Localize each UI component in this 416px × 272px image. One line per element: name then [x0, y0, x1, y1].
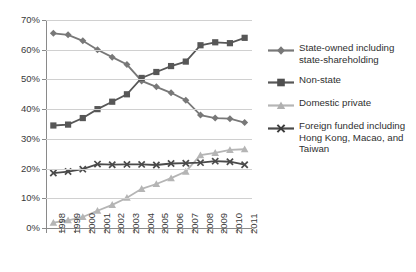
- x-axis-tick-label: 2009: [219, 213, 229, 234]
- x-axis-tick-label: 2007: [190, 213, 200, 234]
- gridline: [46, 198, 252, 199]
- y-tick-mark: [42, 20, 46, 21]
- x-axis-tick-label: 2001: [102, 213, 112, 234]
- gridline: [46, 79, 252, 80]
- chart-figure: State-owned including state-shareholding…: [0, 0, 416, 272]
- y-tick-mark: [42, 109, 46, 110]
- cross-marker-icon: [268, 121, 294, 134]
- legend-label: State-owned including state-shareholding: [299, 42, 416, 65]
- x-axis-tick-label: 2010: [234, 213, 244, 234]
- y-axis-tick-label: 50%: [0, 74, 40, 84]
- y-tick-mark: [42, 169, 46, 170]
- y-axis-tick-label: 70%: [0, 15, 40, 25]
- y-axis-tick-label: 10%: [0, 193, 40, 203]
- x-axis-tick-label: 1998: [57, 213, 67, 234]
- y-axis-tick-label: 30%: [0, 134, 40, 144]
- gridline: [46, 20, 252, 21]
- y-axis-tick-label: 40%: [0, 104, 40, 114]
- legend-label: Non-state: [299, 74, 341, 86]
- legend-item-state-owned: State-owned including state-shareholding: [268, 42, 416, 65]
- gridline: [46, 139, 252, 140]
- x-axis-tick-label: 2008: [205, 213, 215, 234]
- legend-label: Domestic private: [299, 97, 371, 109]
- gridline: [46, 109, 252, 110]
- y-tick-mark: [42, 198, 46, 199]
- legend-item-foreign-funded: Foreign funded including Hong Kong, Maca…: [268, 120, 416, 155]
- triangle-marker-icon: [268, 98, 294, 111]
- square-marker-icon: [268, 75, 294, 88]
- y-tick-mark: [42, 139, 46, 140]
- x-axis-tick-label: 1999: [72, 213, 82, 234]
- x-axis-tick-label: 2011: [249, 214, 259, 234]
- chart-legend: State-owned including state-shareholding…: [268, 42, 416, 164]
- x-axis-tick-label: 2003: [131, 213, 141, 234]
- y-axis-tick-label: 60%: [0, 45, 40, 55]
- legend-label: Foreign funded including Hong Kong, Maca…: [299, 120, 416, 155]
- x-axis-tick-label: 2005: [160, 213, 170, 234]
- gridline: [46, 50, 252, 51]
- x-axis-tick-label: 2000: [87, 213, 97, 234]
- x-axis-tick-label: 2002: [116, 213, 126, 234]
- diamond-marker-icon: [268, 43, 294, 56]
- y-axis-tick-label: 20%: [0, 164, 40, 174]
- x-axis-tick-label: 2006: [175, 213, 185, 234]
- y-tick-mark: [42, 79, 46, 80]
- gridline: [46, 169, 252, 170]
- plot-area: [46, 20, 252, 228]
- y-tick-mark: [42, 50, 46, 51]
- y-axis-tick-label: 0%: [0, 223, 40, 233]
- legend-item-domestic-private: Domestic private: [268, 97, 416, 111]
- x-axis-tick-label: 2004: [146, 213, 156, 234]
- legend-item-non-state: Non-state: [268, 74, 416, 88]
- x-tick-mark: [46, 229, 47, 233]
